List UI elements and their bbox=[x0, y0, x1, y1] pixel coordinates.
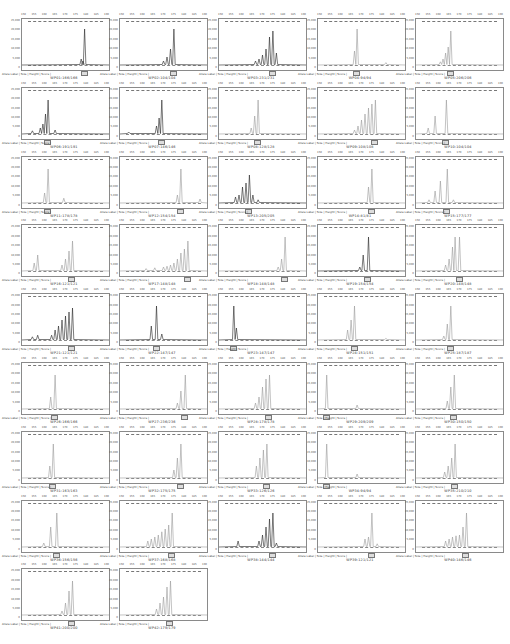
plot-area[interactable] bbox=[218, 500, 307, 553]
plot-area[interactable] bbox=[317, 293, 406, 346]
marker-genotype-label: WP28:178/178 bbox=[217, 420, 305, 424]
y-tick-label: 15,000 bbox=[2, 38, 20, 41]
y-tick-label: 0 bbox=[100, 410, 118, 413]
y-tick-label: 10,000 bbox=[298, 460, 316, 463]
plot-area[interactable] bbox=[21, 362, 110, 415]
plot-area[interactable] bbox=[119, 500, 208, 553]
y-tick-label: 15,000 bbox=[396, 107, 414, 110]
signal-trace bbox=[219, 157, 306, 208]
y-tick-label: 5,000 bbox=[396, 194, 414, 197]
y-tick-label: 25,000 bbox=[100, 157, 118, 160]
y-tick-label: 5,000 bbox=[199, 57, 217, 60]
plot-area[interactable] bbox=[317, 500, 406, 553]
plot-area[interactable] bbox=[317, 18, 406, 71]
signal-trace bbox=[318, 363, 405, 414]
y-tick-label: 20,000 bbox=[100, 97, 118, 100]
y-tick-label: 25,000 bbox=[2, 501, 20, 504]
signal-trace bbox=[219, 432, 306, 483]
signal-trace bbox=[120, 501, 207, 552]
y-tick-label: 25,000 bbox=[298, 88, 316, 91]
y-tick-label: 20,000 bbox=[298, 304, 316, 307]
y-tick-label: 15,000 bbox=[100, 244, 118, 247]
plot-area[interactable] bbox=[21, 568, 110, 621]
electropherogram-panel: 15015516016517017518018519025,00020,0001… bbox=[0, 426, 98, 495]
plot-area[interactable] bbox=[415, 18, 504, 71]
y-tick-label: 5,000 bbox=[100, 401, 118, 404]
plot-area[interactable] bbox=[21, 87, 110, 140]
plot-area[interactable] bbox=[415, 362, 504, 415]
plot-area[interactable] bbox=[218, 18, 307, 71]
y-axis-ticks: 25,00020,00015,00010,0005,0000 bbox=[199, 363, 217, 413]
plot-area[interactable] bbox=[21, 293, 110, 346]
plot-area[interactable] bbox=[317, 87, 406, 140]
plot-area[interactable] bbox=[119, 431, 208, 484]
y-tick-label: 0 bbox=[199, 341, 217, 344]
y-tick-label: 5,000 bbox=[298, 332, 316, 335]
plot-area[interactable] bbox=[218, 224, 307, 277]
signal-trace bbox=[416, 19, 503, 70]
plot-area[interactable] bbox=[415, 156, 504, 209]
signal-trace bbox=[416, 225, 503, 276]
plot-area[interactable] bbox=[317, 431, 406, 484]
plot-area[interactable] bbox=[119, 568, 208, 621]
marker-genotype-label: WP35:210/210 bbox=[414, 489, 502, 493]
plot-area[interactable] bbox=[21, 500, 110, 553]
signal-trace bbox=[416, 157, 503, 208]
y-tick-label: 15,000 bbox=[2, 382, 20, 385]
y-tick-label: 15,000 bbox=[396, 451, 414, 454]
electropherogram-panel: 15015516016517017518018519025,00020,0001… bbox=[0, 495, 98, 564]
y-tick-label: 25,000 bbox=[199, 88, 217, 91]
plot-area[interactable] bbox=[119, 224, 208, 277]
marker-genotype-label: WP32:175/175 bbox=[118, 489, 206, 493]
plot-area[interactable] bbox=[119, 18, 208, 71]
plot-area[interactable] bbox=[317, 224, 406, 277]
plot-area[interactable] bbox=[218, 362, 307, 415]
y-tick-label: 10,000 bbox=[298, 254, 316, 257]
plot-area[interactable] bbox=[415, 224, 504, 277]
y-tick-label: 20,000 bbox=[298, 166, 316, 169]
electropherogram-panel: 15015516016517017518018519025,00020,0001… bbox=[0, 13, 98, 82]
y-tick-label: 10,000 bbox=[199, 116, 217, 119]
y-tick-label: 10,000 bbox=[100, 460, 118, 463]
y-tick-label: 10,000 bbox=[100, 185, 118, 188]
plot-area[interactable] bbox=[317, 156, 406, 209]
plot-area[interactable] bbox=[415, 431, 504, 484]
plot-area[interactable] bbox=[218, 87, 307, 140]
y-tick-label: 0 bbox=[298, 272, 316, 275]
plot-area[interactable] bbox=[119, 362, 208, 415]
y-tick-label: 25,000 bbox=[396, 19, 414, 22]
plot-area[interactable] bbox=[21, 431, 110, 484]
y-tick-label: 25,000 bbox=[2, 88, 20, 91]
y-tick-label: 15,000 bbox=[100, 175, 118, 178]
y-tick-label: 20,000 bbox=[396, 28, 414, 31]
y-tick-label: 25,000 bbox=[199, 157, 217, 160]
marker-genotype-label: WP17:148/148 bbox=[118, 282, 206, 286]
plot-area[interactable] bbox=[415, 500, 504, 553]
y-tick-label: 20,000 bbox=[100, 235, 118, 238]
y-tick-label: 10,000 bbox=[396, 529, 414, 532]
y-tick-label: 20,000 bbox=[2, 166, 20, 169]
y-axis-ticks: 25,00020,00015,00010,0005,0000 bbox=[396, 88, 414, 138]
signal-trace bbox=[219, 501, 306, 552]
plot-area[interactable] bbox=[218, 431, 307, 484]
plot-area[interactable] bbox=[317, 362, 406, 415]
y-tick-label: 20,000 bbox=[396, 166, 414, 169]
plot-area[interactable] bbox=[21, 224, 110, 277]
plot-area[interactable] bbox=[415, 293, 504, 346]
signal-trace bbox=[318, 432, 405, 483]
plot-area[interactable] bbox=[119, 87, 208, 140]
electropherogram-panel: 15015516016517017518018519025,00020,0001… bbox=[197, 151, 295, 220]
plot-area[interactable] bbox=[218, 293, 307, 346]
y-tick-label: 10,000 bbox=[298, 391, 316, 394]
y-tick-label: 15,000 bbox=[199, 107, 217, 110]
plot-area[interactable] bbox=[21, 18, 110, 71]
signal-trace bbox=[22, 294, 109, 345]
plot-area[interactable] bbox=[119, 156, 208, 209]
plot-area[interactable] bbox=[21, 156, 110, 209]
y-tick-label: 10,000 bbox=[2, 529, 20, 532]
plot-area[interactable] bbox=[415, 87, 504, 140]
plot-area[interactable] bbox=[119, 293, 208, 346]
plot-area[interactable] bbox=[218, 156, 307, 209]
electropherogram-panel: 15015516016517017518018519025,00020,0001… bbox=[394, 288, 492, 357]
y-tick-label: 0 bbox=[100, 616, 118, 619]
